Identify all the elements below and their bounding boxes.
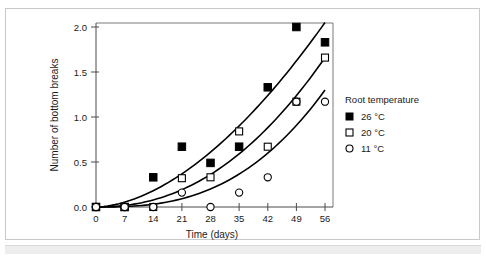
y-tick-label-1-5: 1.5 — [74, 67, 87, 78]
data-point — [321, 39, 329, 47]
data-point — [236, 128, 243, 135]
data-point — [264, 143, 271, 150]
data-point — [264, 84, 272, 92]
y-tick-label-1-0: 1.0 — [74, 112, 87, 123]
data-point — [178, 143, 186, 151]
data-point — [264, 174, 271, 181]
data-point — [92, 203, 99, 210]
data-point — [293, 98, 300, 105]
data-point — [322, 54, 329, 61]
x-tick-label-56: 56 — [320, 213, 331, 224]
data-point — [178, 189, 185, 196]
open-square-icon — [346, 129, 353, 136]
legend-label-11c: 11 °C — [361, 143, 384, 154]
data-point — [207, 174, 214, 181]
data-point — [121, 203, 128, 210]
filled-square-icon — [346, 113, 353, 120]
x-tick-label-21: 21 — [177, 213, 188, 224]
x-tick-label-35: 35 — [234, 213, 245, 224]
y-axis-title: Number of bottom breaks — [49, 59, 60, 172]
x-tick-label-14: 14 — [148, 213, 159, 224]
legend: Root temperature 26 °C 20 °C 11 °C — [345, 94, 419, 154]
y-axis: 2.0 1.5 1.0 0.5 0.0 Number of bottom bre… — [49, 22, 99, 213]
legend-title: Root temperature — [345, 94, 419, 105]
x-tick-label-7: 7 — [122, 213, 127, 224]
y-axis-ticks — [91, 27, 99, 207]
x-axis-tick-labels: 0 7 14 21 28 35 42 49 56 — [93, 213, 330, 224]
y-tick-label-2-0: 2.0 — [74, 22, 87, 33]
data-point — [236, 189, 243, 196]
legend-item-11c[interactable]: 11 °C — [346, 143, 384, 154]
y-tick-label-0-0: 0.0 — [74, 202, 87, 213]
x-tick-label-0: 0 — [93, 213, 98, 224]
x-axis-title: Time (days) — [186, 229, 238, 240]
data-points — [92, 23, 329, 211]
data-point — [207, 203, 214, 210]
legend-label-20c: 20 °C — [361, 127, 385, 138]
legend-item-20c[interactable]: 20 °C — [346, 127, 385, 138]
figure-root: 2.0 1.5 1.0 0.5 0.0 Number of bottom bre… — [0, 0, 486, 259]
legend-label-26c: 26 °C — [361, 111, 385, 122]
legend-item-26c[interactable]: 26 °C — [346, 111, 385, 122]
data-point — [178, 175, 185, 182]
y-tick-label-0-5: 0.5 — [74, 157, 87, 168]
data-point — [293, 23, 301, 31]
x-tick-label-42: 42 — [263, 213, 274, 224]
open-circle-icon — [346, 145, 353, 152]
data-point — [207, 159, 215, 167]
y-axis-tick-labels: 2.0 1.5 1.0 0.5 0.0 — [74, 22, 87, 213]
x-tick-label-49: 49 — [291, 213, 302, 224]
data-point — [235, 143, 243, 151]
fit-curve-11c — [96, 90, 325, 207]
x-tick-label-28: 28 — [205, 213, 216, 224]
data-point — [150, 203, 157, 210]
data-point — [321, 98, 328, 105]
data-point — [150, 174, 158, 182]
chart-canvas: 2.0 1.5 1.0 0.5 0.0 Number of bottom bre… — [0, 0, 486, 259]
